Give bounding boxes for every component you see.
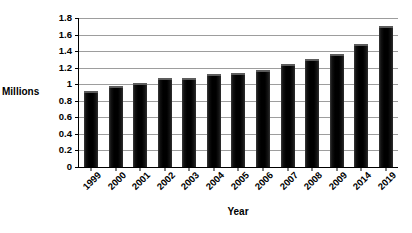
- bar: [158, 78, 172, 167]
- plot-area: 1.81.61.41.210.80.60.40.20: [78, 18, 398, 168]
- x-tick-label: 2005: [229, 170, 251, 192]
- x-tick-label: 2009: [327, 170, 349, 192]
- x-tick-label: 2003: [179, 170, 201, 192]
- y-tick-label: 0: [67, 162, 72, 172]
- y-tick-mark: [75, 167, 79, 168]
- bar: [281, 64, 295, 167]
- bar: [133, 83, 147, 167]
- bar: [256, 70, 270, 167]
- x-tick-label: 2002: [155, 170, 177, 192]
- caption-cutoff: [28, 228, 384, 233]
- y-tick-label: 1: [67, 79, 72, 89]
- y-axis-title: Millions: [2, 86, 56, 97]
- bar: [84, 91, 98, 167]
- x-tick-label: 2014: [351, 170, 373, 192]
- x-tick-label: 2006: [253, 170, 275, 192]
- x-tick-label: 2000: [106, 170, 128, 192]
- bar-slot: [251, 18, 276, 167]
- bar-slot: [349, 18, 374, 167]
- y-tick-label: 0.2: [59, 146, 72, 156]
- y-tick-label: 1.2: [59, 63, 72, 73]
- bar: [305, 59, 319, 167]
- x-tick-label: 2008: [302, 170, 324, 192]
- y-tick-label: 1.6: [59, 30, 72, 40]
- bar-slot: [153, 18, 178, 167]
- bar-slot: [300, 18, 325, 167]
- y-tick-label: 0.4: [59, 129, 72, 139]
- bar-slot: [275, 18, 300, 167]
- bar-slot: [373, 18, 398, 167]
- bar: [182, 78, 196, 167]
- x-tick-label: 1999: [81, 170, 103, 192]
- y-tick-label: 1.8: [59, 13, 72, 23]
- bar-slot: [79, 18, 104, 167]
- bar-slot: [104, 18, 129, 167]
- bar: [379, 26, 393, 167]
- bar-slot: [177, 18, 202, 167]
- y-tick-label: 0.8: [59, 96, 72, 106]
- x-tick-label: 2007: [278, 170, 300, 192]
- bar: [330, 54, 344, 167]
- y-tick-label: 0.6: [59, 113, 72, 123]
- bar: [207, 74, 221, 167]
- x-tick-label: 2001: [130, 170, 152, 192]
- bar-series: [79, 18, 398, 167]
- x-axis-tick-labels: 1999200020012002200320042005200620072008…: [78, 170, 398, 206]
- bar-slot: [324, 18, 349, 167]
- bar: [109, 86, 123, 167]
- bar-slot: [226, 18, 251, 167]
- bar: [231, 73, 245, 167]
- x-tick-label: 2019: [376, 170, 398, 192]
- bar-slot: [128, 18, 153, 167]
- bar-chart: Millions 1.81.61.41.210.80.60.40.20 1999…: [0, 0, 412, 233]
- bar-slot: [202, 18, 227, 167]
- x-axis-title: Year: [78, 206, 398, 217]
- y-tick-label: 1.4: [59, 46, 72, 56]
- bar: [354, 44, 368, 167]
- x-tick-label: 2004: [204, 170, 226, 192]
